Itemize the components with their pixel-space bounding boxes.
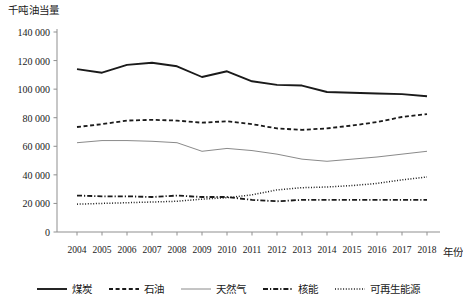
- legend-label: 核能: [298, 284, 318, 295]
- chart-legend: 煤炭石油天然气核能可再生能源: [0, 284, 456, 295]
- legend-swatch-天然气: [181, 284, 211, 294]
- series-line-核能: [77, 196, 427, 202]
- legend-label: 煤炭: [72, 284, 92, 295]
- legend-label: 天然气: [216, 284, 246, 295]
- legend-swatch-煤炭: [37, 284, 67, 294]
- legend-item[interactable]: 煤炭: [37, 284, 92, 295]
- legend-label: 石油: [144, 284, 164, 295]
- series-line-石油: [77, 114, 427, 130]
- legend-item[interactable]: 天然气: [181, 284, 246, 295]
- legend-item[interactable]: 核能: [263, 284, 318, 295]
- legend-label: 可再生能源: [370, 284, 420, 295]
- legend-swatch-核能: [263, 284, 293, 294]
- legend-item[interactable]: 石油: [109, 284, 164, 295]
- legend-swatch-石油: [109, 284, 139, 294]
- legend-item[interactable]: 可再生能源: [335, 284, 420, 295]
- legend-swatch-可再生能源: [335, 284, 365, 294]
- series-line-天然气: [77, 141, 427, 162]
- series-line-煤炭: [77, 63, 427, 97]
